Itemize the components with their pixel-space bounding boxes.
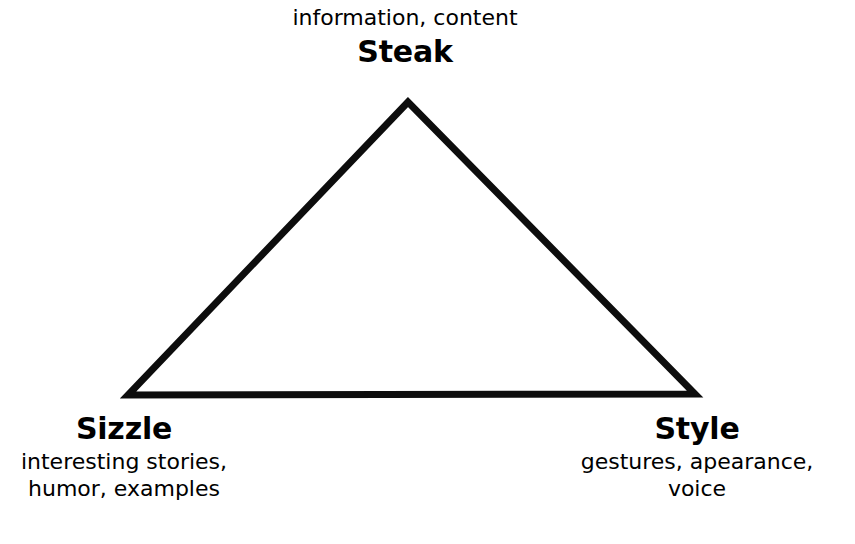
sizzle-description-line-2: humor, examples — [0, 475, 274, 502]
style-title: Style — [547, 412, 847, 446]
triangle-outline — [128, 102, 695, 395]
steak-description: information, content — [155, 4, 655, 31]
sizzle-description-line-1: interesting stories, — [0, 448, 274, 475]
steak-title: Steak — [155, 35, 655, 69]
sizzle-description: interesting stories, humor, examples — [0, 448, 274, 502]
steak-description-line: information, content — [155, 4, 655, 31]
style-description-line-1: gestures, apearance, — [547, 448, 847, 475]
vertex-label-style: Style gestures, apearance, voice — [547, 412, 847, 502]
vertex-label-steak: information, content Steak — [155, 4, 655, 69]
style-description-line-2: voice — [547, 475, 847, 502]
vertex-label-sizzle: Sizzle interesting stories, humor, examp… — [0, 412, 274, 502]
style-description: gestures, apearance, voice — [547, 448, 847, 502]
sizzle-title: Sizzle — [0, 412, 274, 446]
diagram-canvas: information, content Steak Sizzle intere… — [0, 0, 855, 544]
